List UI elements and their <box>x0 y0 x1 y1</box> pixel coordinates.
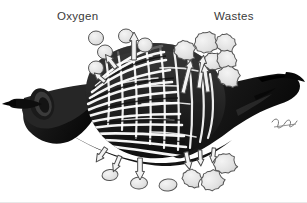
oxygen-particle <box>138 38 153 52</box>
oxygen-out-bottom-left-arrow <box>93 146 109 165</box>
artist-signature <box>272 119 297 128</box>
gill-gas-exchange-figure: Oxygen Wastes <box>0 0 307 203</box>
oxygen-particle <box>158 178 177 192</box>
oxygen-particle <box>101 169 118 182</box>
gill-illustration <box>0 0 307 203</box>
label-wastes: Wastes <box>214 10 254 22</box>
baseline-rule <box>0 202 307 203</box>
label-oxygen: Oxygen <box>57 10 98 22</box>
waste-particle <box>179 167 204 191</box>
oxygen-particle <box>89 31 104 45</box>
